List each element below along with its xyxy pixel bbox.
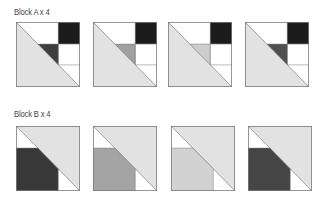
block-b-1 [16, 126, 80, 191]
block-a-3 [168, 22, 232, 87]
block-a-2 [93, 22, 157, 87]
block-a-label: Block A x 4 [14, 7, 50, 17]
block-a-1 [16, 22, 80, 87]
block-b-4 [248, 126, 312, 191]
block-b-2 [93, 126, 157, 191]
block-b-3 [171, 126, 235, 191]
block-a-4 [245, 22, 309, 87]
block-b-label: Block B x 4 [14, 109, 50, 119]
